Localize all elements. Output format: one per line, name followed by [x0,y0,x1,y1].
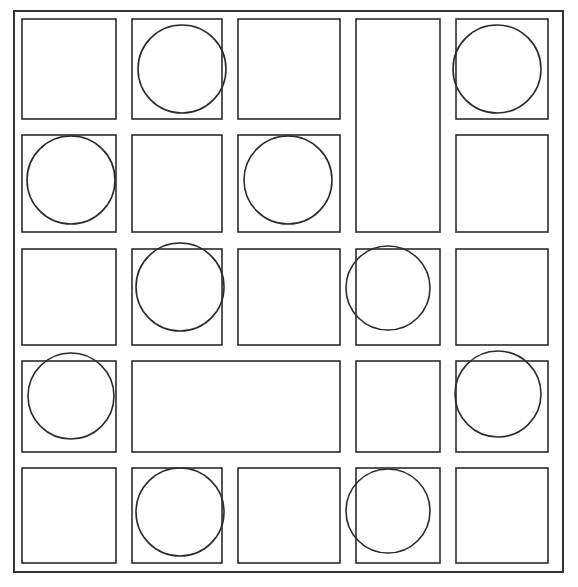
grid-cell-r4c23[interactable] [132,361,340,452]
circle-icon-r3c2[interactable] [136,243,224,331]
grid-cell-r1c3[interactable] [238,19,340,119]
grid-cell-r2c3[interactable] [238,135,340,232]
circle-tokens [27,25,541,556]
circle-icon-r2c1[interactable] [27,136,115,224]
grid-cell-r2c5[interactable] [456,135,548,232]
grid-cells [22,19,548,563]
grid-cell-r3c5[interactable] [456,249,548,345]
grid-cell-r5c3[interactable] [238,468,340,563]
grid-cell-r1c4[interactable] [356,19,440,232]
circle-icon-r1c5[interactable] [453,25,541,113]
circle-icon-r3c4[interactable] [346,246,430,330]
grid-cell-r5c2[interactable] [132,468,222,563]
grid-cell-r3c1[interactable] [22,249,116,345]
circle-icon-r4c5[interactable] [455,351,541,437]
grid-cell-r3c4[interactable] [356,249,440,345]
circle-icon-r2c3[interactable] [244,136,332,224]
outer-frame-rect [14,11,563,572]
grid-cell-r5c5[interactable] [456,468,548,563]
grid-cell-r5c1[interactable] [22,468,116,563]
outer-frame [14,11,563,572]
circle-icon-r5c4[interactable] [346,469,430,553]
circle-icon-r1c2[interactable] [138,25,226,113]
grid-cell-r1c1[interactable] [22,19,116,119]
grid-cell-r4c5[interactable] [456,361,548,452]
grid-diagram [0,0,578,587]
circle-icon-r5c2[interactable] [136,468,224,556]
grid-cell-r2c2[interactable] [132,135,222,232]
circle-icon-r4c1[interactable] [28,353,114,439]
diagram-canvas [0,0,578,587]
grid-cell-r3c3[interactable] [238,249,340,345]
grid-cell-r4c4[interactable] [356,361,440,452]
